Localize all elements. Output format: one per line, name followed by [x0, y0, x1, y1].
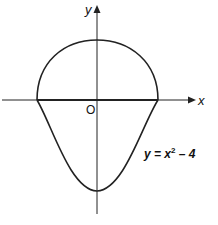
- equation-prefix: y = x: [144, 147, 171, 161]
- y-axis-arrow-icon: [94, 5, 101, 13]
- origin-label: O: [86, 104, 95, 116]
- parabola-equation: y = x2 – 4: [144, 147, 196, 160]
- x-axis-arrow-icon: [188, 97, 196, 104]
- equation-suffix: – 4: [175, 147, 195, 161]
- y-axis-label: y: [85, 3, 92, 16]
- graph-canvas: [0, 0, 218, 225]
- x-axis-label: x: [198, 94, 205, 107]
- diagram: y x O y = x2 – 4: [0, 0, 218, 225]
